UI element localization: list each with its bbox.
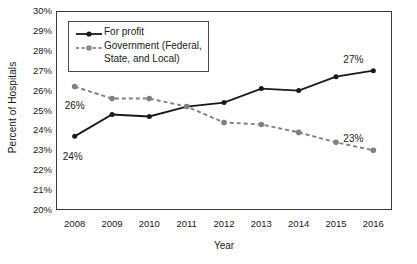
data-point-label: 24% [63,152,83,162]
data-point-marker [221,120,227,126]
data-point-marker [72,134,77,139]
y-tick-label: 25% [22,106,52,116]
x-tick-label: 2014 [279,219,319,229]
data-point-marker [259,86,264,91]
legend-label-for-profit: For profit [104,26,144,39]
x-tick-label: 2013 [241,219,281,229]
series-line [75,87,374,151]
x-tick-label: 2011 [167,219,207,229]
hospital-ownership-line-chart: Percent of Hospitals 20%21%22%23%24%25%2… [0,0,417,264]
data-point-marker [184,104,190,110]
y-tick-label: 22% [22,165,52,175]
y-tick-label: 29% [22,26,52,36]
x-tick-label: 2009 [92,219,132,229]
y-tick-label: 20% [22,205,52,215]
data-point-marker [109,96,115,102]
y-tick-label: 21% [22,185,52,195]
y-tick-label: 27% [22,66,52,76]
data-point-marker [147,96,153,102]
x-axis-title: Year [55,240,393,251]
data-point-marker [296,130,302,136]
data-point-marker [147,114,152,119]
x-tick-label: 2010 [129,219,169,229]
chart-legend: For profit Government (Federal, State, a… [68,21,209,72]
y-tick-label: 30% [22,6,52,16]
data-point-label: 26% [65,101,85,111]
y-tick-label: 23% [22,146,52,156]
legend-item-for-profit: For profit [74,26,202,39]
legend-item-government: Government (Federal, State, and Local) [74,40,202,65]
x-tick-label: 2012 [204,219,244,229]
legend-swatch-solid-line-icon [74,26,104,39]
data-point-marker [371,68,376,73]
data-point-marker [222,100,227,105]
data-point-label: 23% [343,134,363,144]
legend-swatch-dashed-line-icon [74,40,104,53]
data-point-marker [110,112,115,117]
y-axis-tick-labels: 20%21%22%23%24%25%26%27%28%29%30% [16,0,52,264]
y-tick-label: 24% [22,126,52,136]
data-point-marker [259,122,265,128]
data-point-label: 27% [343,55,363,65]
data-point-marker [371,148,377,154]
x-tick-label: 2015 [316,219,356,229]
data-point-marker [334,74,339,79]
x-tick-label: 2016 [353,219,393,229]
data-point-marker [72,84,78,90]
data-point-marker [296,88,301,93]
y-tick-label: 26% [22,86,52,96]
data-point-marker [333,140,339,146]
y-tick-label: 28% [22,46,52,56]
x-tick-label: 2008 [55,219,95,229]
legend-label-government: Government (Federal, State, and Local) [104,40,202,65]
